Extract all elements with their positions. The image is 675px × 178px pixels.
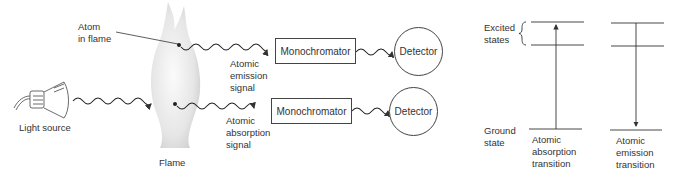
excited-label-line1: Excited [484, 22, 515, 34]
absorption-signal-label-line3: signal [226, 139, 270, 151]
absorption-transition-label: Atomic absorption transition [532, 134, 576, 170]
emission-transition-line1: Atomic [616, 135, 655, 147]
absorption-atom-dot [173, 102, 177, 106]
emission-atom-dot [177, 43, 181, 47]
ground-label-line1: Ground [484, 125, 516, 137]
absorption-signal-label-line2: absorption [226, 127, 270, 139]
emission-monochromator: Monochromator [275, 38, 356, 64]
absorption-detector-label: Detector [395, 106, 433, 117]
absorption-to-detector-wave [352, 108, 388, 114]
emission-signal-label-line2: emission [230, 70, 268, 82]
absorption-monochromator: Monochromator [271, 98, 352, 124]
emission-transition-line3: transition [616, 159, 655, 171]
atom-label-line1: Atom [78, 21, 111, 33]
light-source-icon [14, 82, 69, 118]
ground-label-line2: state [484, 137, 516, 149]
emission-detector: Detector [394, 27, 443, 76]
emission-signal-label: Atomic emission signal [230, 58, 268, 94]
excited-states-label: Excited states [484, 22, 515, 46]
absorption-detector: Detector [389, 87, 438, 136]
ground-state-label: Ground state [484, 125, 516, 149]
atom-label-line2: in flame [78, 33, 111, 45]
emission-signal-label-line3: signal [230, 82, 268, 94]
absorption-transition-line3: transition [532, 158, 576, 170]
flame-label: Flame [159, 157, 185, 169]
atom-in-flame-label: Atom in flame [78, 21, 111, 45]
emission-detector-label: Detector [400, 46, 438, 57]
absorption-monochromator-label: Monochromator [276, 106, 346, 117]
absorption-signal-label: Atomic absorption signal [226, 115, 270, 151]
excited-states-brace-icon [519, 22, 526, 45]
incident-light-wave [73, 98, 151, 105]
flame-icon [151, 2, 200, 148]
absorption-transition-line1: Atomic [532, 134, 576, 146]
absorption-signal-label-line1: Atomic [226, 115, 270, 127]
emission-transition-label: Atomic emission transition [616, 135, 655, 171]
emission-monochromator-label: Monochromator [280, 46, 350, 57]
light-source-label: Light source [19, 122, 71, 134]
emission-to-detector-wave [356, 49, 392, 55]
emission-transition-line2: emission [616, 147, 655, 159]
excited-label-line2: states [484, 34, 515, 46]
absorption-transition-line2: absorption [532, 146, 576, 158]
emission-signal-label-line1: Atomic [230, 58, 268, 70]
energy-level-diagram [519, 22, 664, 130]
